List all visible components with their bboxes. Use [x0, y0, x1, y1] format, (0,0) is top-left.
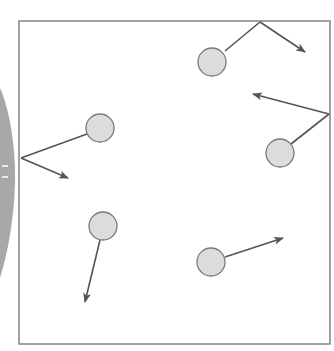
ball-2 — [266, 139, 294, 167]
bouncing-balls-diagram — [0, 0, 334, 351]
ball-3 — [86, 114, 114, 142]
ball-1-arrow-icon — [260, 22, 305, 52]
ball-1 — [198, 48, 226, 76]
ball-2-arrow-icon — [253, 94, 329, 114]
ball-3-arrow-icon — [21, 158, 68, 178]
trajectory-lines — [21, 22, 329, 158]
ball-2-incoming-path — [291, 114, 329, 144]
ball-4-arrow-icon — [85, 240, 100, 302]
ball-4 — [89, 212, 117, 240]
ball-1-incoming-path — [225, 22, 260, 51]
ball-3-incoming-path — [21, 134, 87, 158]
container-box — [19, 21, 330, 344]
ball-5-arrow-icon — [225, 238, 283, 257]
balls — [86, 48, 294, 276]
ball-5 — [197, 248, 225, 276]
side-gray-shape — [0, 88, 15, 278]
diagram-canvas — [0, 0, 334, 351]
